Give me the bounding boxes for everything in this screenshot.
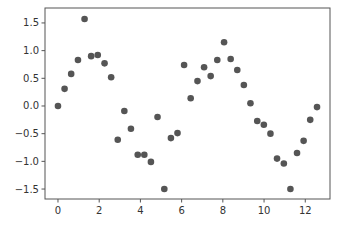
data-point bbox=[254, 118, 261, 125]
data-point bbox=[88, 53, 95, 60]
data-point bbox=[274, 155, 281, 162]
data-point bbox=[314, 104, 321, 111]
data-point bbox=[154, 114, 161, 121]
data-point bbox=[300, 138, 307, 145]
y-tick-label: −1.5 bbox=[15, 184, 39, 195]
data-point bbox=[281, 160, 288, 167]
data-point bbox=[121, 108, 128, 115]
data-point bbox=[55, 103, 62, 110]
data-point bbox=[114, 136, 121, 143]
x-tick-label: 0 bbox=[55, 205, 61, 216]
x-tick-label: 10 bbox=[258, 205, 271, 216]
x-tick-label: 12 bbox=[299, 205, 312, 216]
data-point bbox=[241, 82, 248, 89]
data-point bbox=[201, 64, 208, 71]
y-tick-label: −0.5 bbox=[15, 128, 39, 139]
data-point bbox=[148, 159, 155, 166]
data-point bbox=[174, 130, 181, 137]
y-tick-label: 0.5 bbox=[23, 73, 39, 84]
x-tick-label: 2 bbox=[96, 205, 102, 216]
y-tick-label: −1.0 bbox=[15, 156, 39, 167]
data-point bbox=[68, 71, 75, 78]
y-axis: 1.51.00.50.0−0.5−1.0−1.5 bbox=[15, 17, 45, 194]
data-point bbox=[261, 122, 268, 129]
data-point bbox=[294, 150, 301, 157]
data-point bbox=[101, 60, 108, 67]
data-point bbox=[227, 56, 234, 63]
data-point bbox=[168, 135, 175, 142]
y-tick-label: 1.5 bbox=[23, 17, 39, 28]
y-tick-label: 0.0 bbox=[23, 100, 39, 111]
data-point bbox=[75, 57, 82, 64]
data-point bbox=[267, 130, 274, 137]
x-tick-label: 4 bbox=[137, 205, 143, 216]
data-point bbox=[61, 86, 68, 93]
data-point bbox=[307, 117, 314, 124]
scatter-plot: 024681012 1.51.00.50.0−0.5−1.0−1.5 bbox=[0, 0, 347, 225]
data-point bbox=[207, 73, 214, 80]
data-point bbox=[194, 78, 201, 85]
data-point bbox=[187, 95, 194, 102]
plot-area bbox=[45, 8, 330, 199]
data-point bbox=[81, 16, 88, 23]
data-point bbox=[161, 186, 168, 193]
data-point bbox=[128, 125, 135, 132]
data-point bbox=[141, 151, 148, 158]
data-point bbox=[134, 151, 141, 158]
x-axis: 024681012 bbox=[55, 199, 312, 216]
data-point bbox=[234, 67, 241, 74]
data-point bbox=[108, 74, 115, 81]
data-point bbox=[247, 100, 254, 107]
data-point bbox=[94, 52, 101, 59]
data-point bbox=[287, 186, 294, 193]
data-point bbox=[214, 57, 221, 64]
y-tick-label: 1.0 bbox=[23, 45, 39, 56]
data-point bbox=[181, 62, 188, 69]
x-tick-label: 8 bbox=[220, 205, 226, 216]
x-tick-label: 6 bbox=[178, 205, 184, 216]
data-point bbox=[221, 39, 228, 46]
